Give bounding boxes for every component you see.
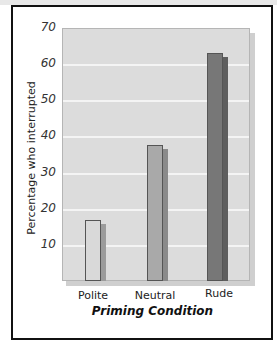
y-axis-label: Percentage who interrupted (25, 81, 38, 235)
x-axis-label: Priming Condition (0, 304, 277, 318)
bar-neutral (147, 145, 163, 281)
y-tick-label: 10 (26, 238, 56, 250)
x-tick-label: Polite (63, 289, 123, 302)
bar-shadow (101, 224, 106, 281)
bar-rude (207, 53, 223, 281)
y-tick-label: 60 (26, 57, 56, 69)
x-tick-label: Rude (189, 287, 249, 300)
bar-polite (85, 220, 101, 281)
y-tick-label: 70 (26, 21, 56, 33)
bar-shadow (163, 149, 168, 281)
bar-shadow (223, 57, 228, 281)
x-tick-label: Neutral (125, 289, 185, 302)
